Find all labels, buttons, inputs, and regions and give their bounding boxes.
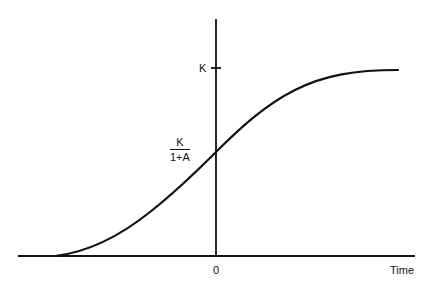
origin-label: 0 bbox=[213, 264, 219, 276]
intercept-numerator: K bbox=[170, 136, 190, 150]
intercept-denominator: 1+A bbox=[170, 150, 190, 163]
logistic-curve-chart bbox=[0, 0, 432, 288]
logistic-curve bbox=[55, 70, 398, 256]
k-label: K bbox=[199, 62, 206, 74]
intercept-label: K 1+A bbox=[170, 136, 190, 163]
x-axis-label: Time bbox=[390, 264, 414, 276]
